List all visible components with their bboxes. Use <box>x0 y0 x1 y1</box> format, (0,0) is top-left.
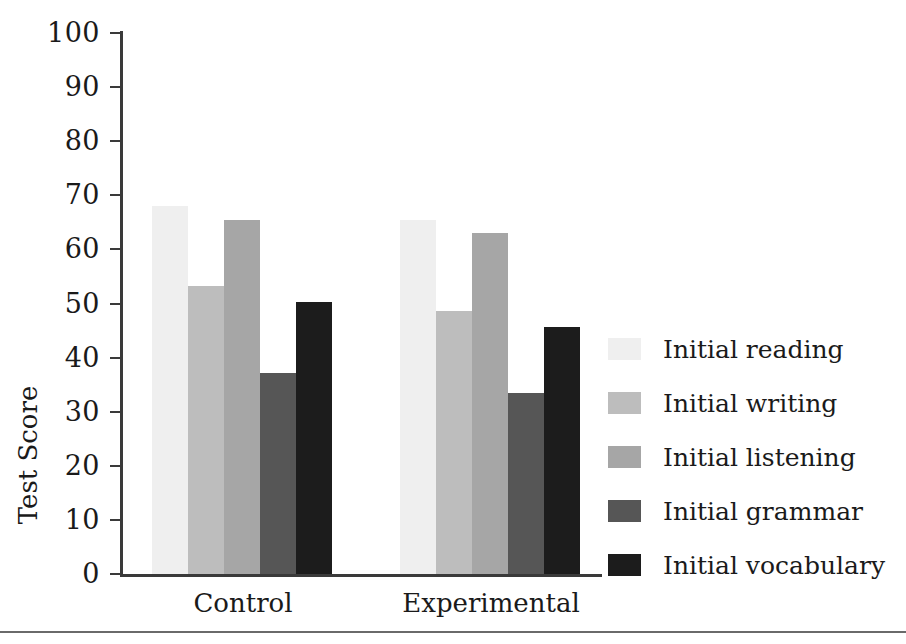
bar-control-initial-grammar <box>260 373 296 574</box>
y-axis-tick-label: 80 <box>0 127 100 154</box>
legend-label: Initial reading <box>663 335 844 364</box>
y-axis-tick-mark <box>110 519 120 521</box>
bar-control-initial-listening <box>224 220 260 574</box>
bar-group-experimental <box>400 33 580 574</box>
y-axis-tick-mark <box>110 32 120 34</box>
legend-label: Initial listening <box>663 443 856 472</box>
x-axis-label-control: Control <box>103 588 383 618</box>
bar-experimental-initial-reading <box>400 220 436 574</box>
legend-swatch-icon <box>608 446 641 468</box>
y-axis-tick-mark <box>110 465 120 467</box>
legend-label: Initial vocabulary <box>663 551 885 580</box>
bottom-divider-rule <box>0 631 906 633</box>
y-axis-tick-label: 0 <box>0 560 100 587</box>
legend-label: Initial grammar <box>663 497 863 526</box>
bar-experimental-initial-writing <box>436 311 472 574</box>
legend-label: Initial writing <box>663 389 837 418</box>
y-axis-tick-mark <box>110 86 120 88</box>
bar-chart-figure: Test Score 1009080706050403020100 Contro… <box>0 0 906 644</box>
legend-item-initial-vocabulary[interactable]: Initial vocabulary <box>608 548 885 582</box>
y-axis-tick-mark <box>110 411 120 413</box>
legend-item-initial-reading[interactable]: Initial reading <box>608 332 844 366</box>
bar-experimental-initial-grammar <box>508 393 544 574</box>
bar-control-initial-writing <box>188 286 224 574</box>
y-axis-tick-label: 100 <box>0 19 100 46</box>
legend-swatch-icon <box>608 500 641 522</box>
y-axis-tick-mark <box>110 303 120 305</box>
y-axis-tick-label: 50 <box>0 290 100 317</box>
y-axis-tick-label: 90 <box>0 73 100 100</box>
y-axis-tick-label: 70 <box>0 181 100 208</box>
legend-swatch-icon <box>608 392 641 414</box>
legend-swatch-icon <box>608 554 641 576</box>
legend-item-initial-writing[interactable]: Initial writing <box>608 386 837 420</box>
x-axis-line <box>120 574 602 577</box>
plot-area <box>123 33 602 574</box>
y-axis-tick-mark <box>110 357 120 359</box>
y-axis-tick-label: 60 <box>0 235 100 262</box>
y-axis-tick-mark <box>110 573 120 575</box>
y-axis-tick-label: 40 <box>0 344 100 371</box>
y-axis-tick-label: 30 <box>0 398 100 425</box>
legend-item-initial-grammar[interactable]: Initial grammar <box>608 494 863 528</box>
y-axis-tick-mark <box>110 194 120 196</box>
bar-experimental-initial-listening <box>472 233 508 574</box>
legend-item-initial-listening[interactable]: Initial listening <box>608 440 856 474</box>
bar-control-initial-reading <box>152 206 188 574</box>
bar-experimental-initial-vocabulary <box>544 327 580 574</box>
y-axis-tick-label: 10 <box>0 506 100 533</box>
legend-swatch-icon <box>608 338 641 360</box>
y-axis-tick-mark <box>110 140 120 142</box>
x-axis-label-experimental: Experimental <box>351 588 631 618</box>
bar-group-control <box>152 33 332 574</box>
y-axis-tick-mark <box>110 248 120 250</box>
bar-control-initial-vocabulary <box>296 302 332 574</box>
y-axis-tick-label: 20 <box>0 452 100 479</box>
